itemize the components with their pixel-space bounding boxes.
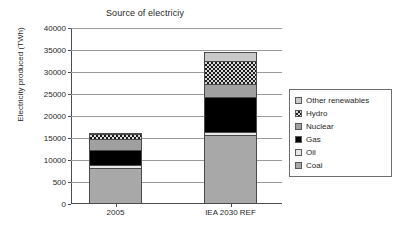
y-tick-mark (68, 94, 71, 95)
y-tick-label: 10000 (44, 156, 66, 165)
legend-item-oil[interactable]: Oil (295, 146, 387, 159)
legend-swatch-icon (295, 149, 302, 156)
y-tick-label: 15000 (44, 134, 66, 143)
y-tick-mark (68, 204, 71, 205)
y-tick-mark (68, 138, 71, 139)
legend-item-other-renewables[interactable]: Other renewables (295, 94, 387, 107)
y-tick-mark (68, 116, 71, 117)
x-tick-mark (231, 204, 232, 207)
y-axis-title: Electricity produced (TWh) (16, 5, 25, 145)
bar-segment-nuclear (204, 84, 257, 98)
bar-segment-coal (89, 168, 142, 204)
y-tick-label: 30000 (44, 68, 66, 77)
legend-label: Nuclear (306, 123, 334, 131)
legend-swatch-icon (295, 136, 302, 143)
x-tick-mark (116, 204, 117, 207)
legend-item-nuclear[interactable]: Nuclear (295, 120, 387, 133)
legend-label: Coal (306, 162, 322, 170)
bar-column (89, 133, 142, 204)
legend-label: Gas (306, 136, 321, 144)
bar-segment-coal (204, 135, 257, 204)
bar-segment-gas (89, 150, 142, 166)
bar-segment-gas (204, 97, 257, 133)
legend-item-coal[interactable]: Coal (295, 159, 387, 172)
chart-legend: Other renewablesHydroNuclearGasOilCoal (289, 89, 392, 177)
gridline (71, 28, 282, 29)
legend-label: Oil (306, 149, 316, 157)
plot-area: 400003500030000250002000015000100005000 (71, 28, 282, 204)
legend-swatch-icon (295, 123, 302, 130)
legend-label: Other renewables (306, 97, 369, 105)
legend-swatch-icon (295, 97, 302, 104)
x-tick-label: IEA 2030 REF (181, 208, 281, 217)
legend-item-hydro[interactable]: Hydro (295, 107, 387, 120)
bar-segment-hydro (204, 61, 257, 85)
chart-title: Source of electriciy (0, 8, 290, 18)
y-tick-label: 25000 (44, 90, 66, 99)
gridline (71, 50, 282, 51)
y-tick-mark (68, 182, 71, 183)
bar-column (204, 52, 257, 204)
y-tick-label: 40000 (44, 24, 66, 33)
y-tick-label: 35000 (44, 46, 66, 55)
stacked-bar-chart: Source of electriciy Electricity produce… (0, 0, 397, 230)
legend-swatch-icon (295, 162, 302, 169)
y-tick-label: 20000 (44, 112, 66, 121)
y-tick-mark (68, 28, 71, 29)
y-tick-mark (68, 50, 71, 51)
legend-swatch-icon (295, 110, 302, 117)
legend-item-gas[interactable]: Gas (295, 133, 387, 146)
y-tick-mark (68, 72, 71, 73)
y-tick-mark (68, 160, 71, 161)
y-tick-label: 500 (53, 178, 66, 187)
x-tick-label: 2005 (66, 208, 166, 217)
legend-label: Hydro (306, 110, 327, 118)
